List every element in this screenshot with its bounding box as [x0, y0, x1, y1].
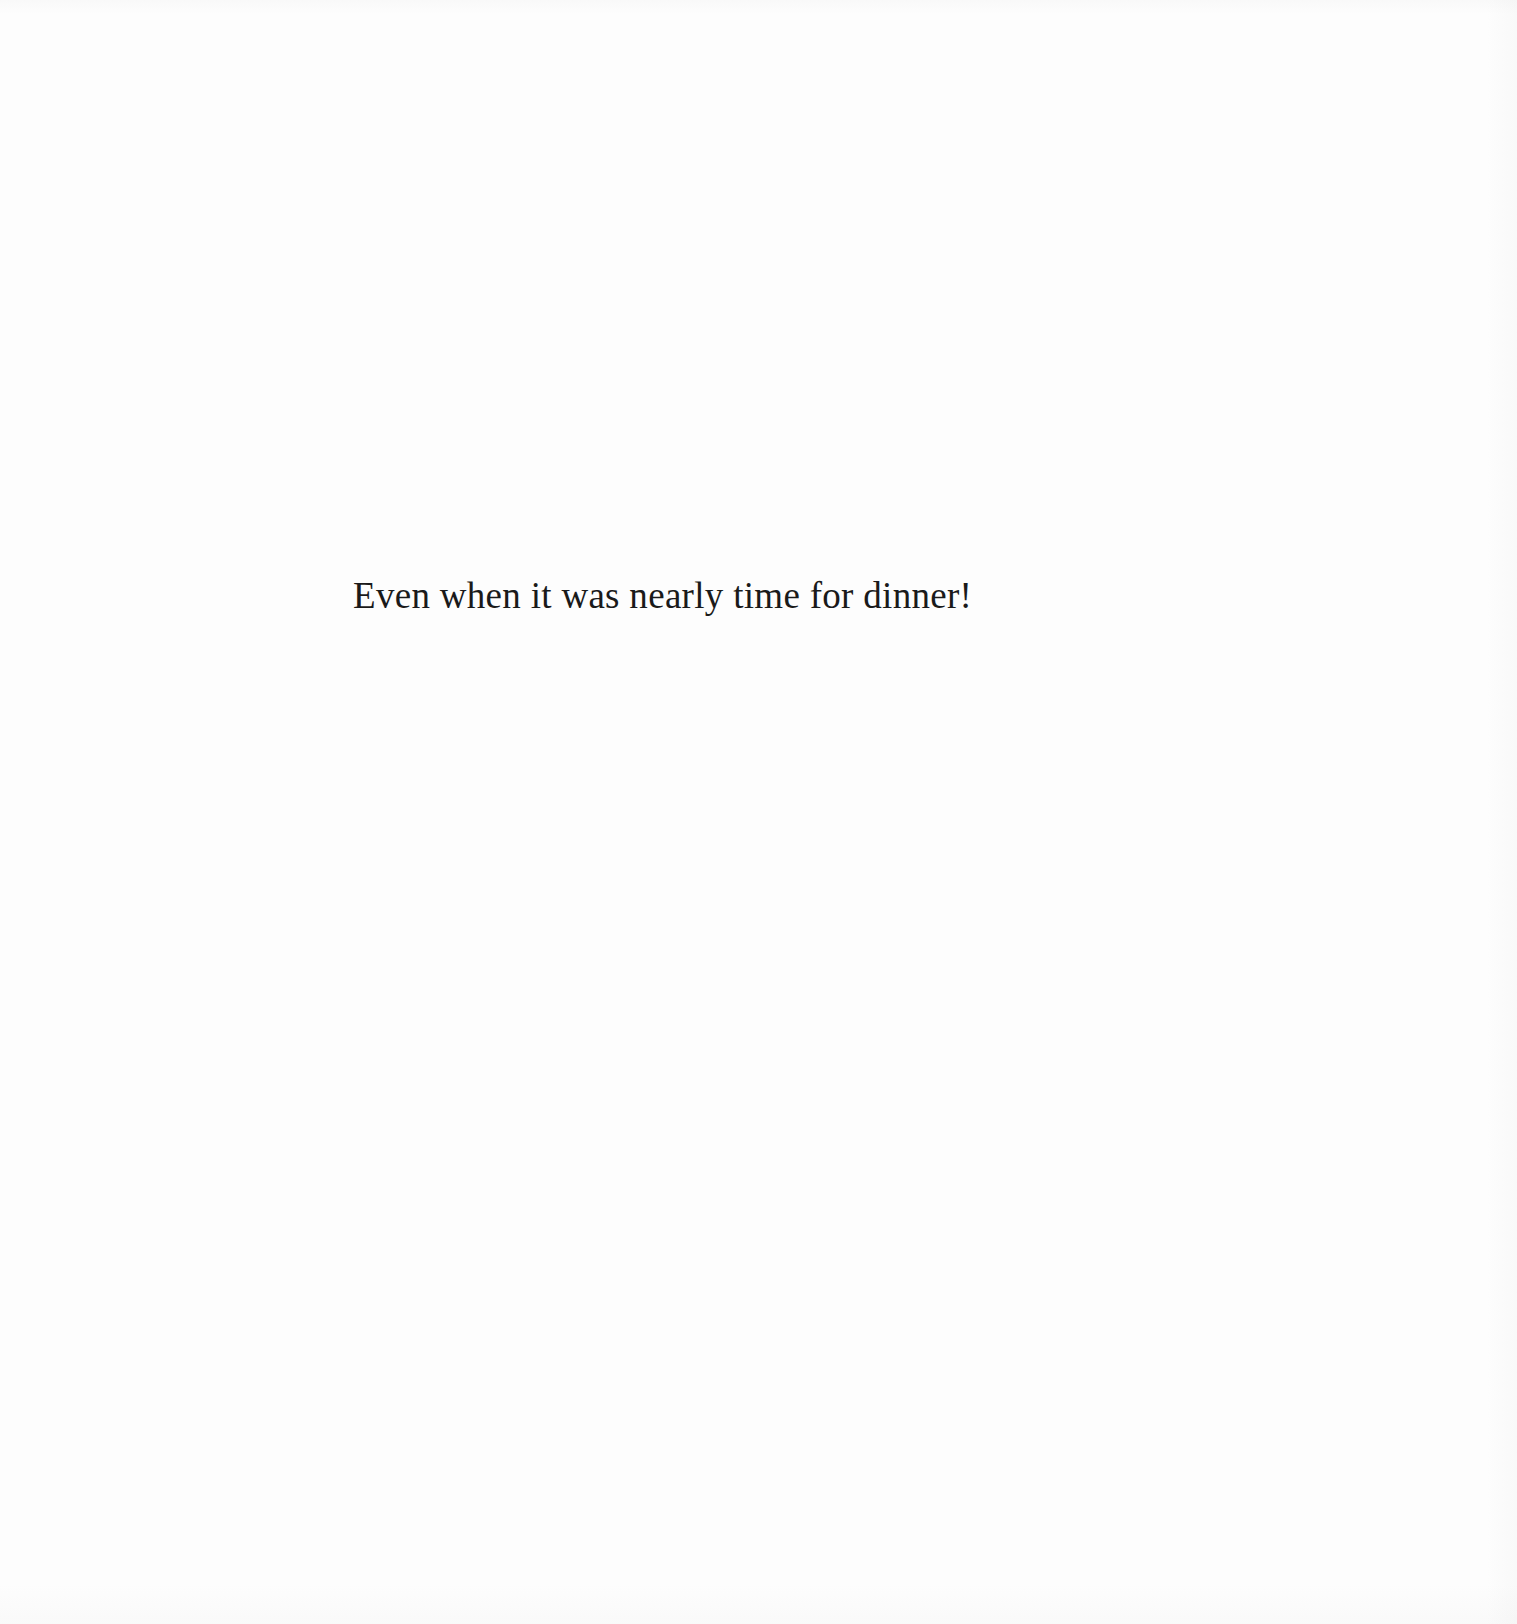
page-edge-right-bleed [1487, 0, 1517, 1624]
page-edge-bottom-bleed [0, 1584, 1517, 1624]
page-edge-top-bleed [0, 0, 1517, 14]
book-page: Even when it was nearly time for dinner! [0, 0, 1517, 1624]
page-text-line: Even when it was nearly time for dinner! [353, 572, 972, 620]
